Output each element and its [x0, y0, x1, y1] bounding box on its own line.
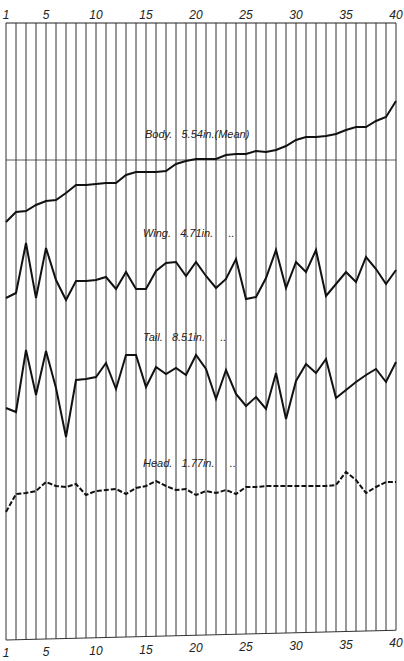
x-tick-label: 1	[3, 8, 10, 22]
wing-series-label: Wing. 4.71in. ..	[143, 227, 235, 239]
x-tick-label: 30	[289, 639, 303, 653]
x-tick-label: 25	[238, 640, 253, 654]
x-tick-label: 40	[389, 636, 403, 650]
x-axis-bottom-ticks: 1510152025303540	[3, 636, 403, 660]
series-lines	[6, 101, 396, 512]
x-tick-label: 40	[389, 8, 403, 22]
x-axis-top-ticks: 1510152025303540	[3, 8, 403, 22]
x-tick-label: 25	[238, 8, 253, 22]
x-tick-label: 15	[139, 8, 153, 22]
x-tick-label: 15	[139, 643, 153, 657]
chart-svg: 1510152025303540 1510152025303540 Body. …	[0, 0, 404, 661]
x-tick-label: 35	[339, 8, 353, 22]
x-tick-label: 20	[188, 8, 203, 22]
tail-series-line	[6, 350, 396, 437]
x-tick-label: 10	[89, 8, 103, 22]
body-series-line	[6, 101, 396, 222]
body-series-label: Body. 5.54in.(Mean)	[145, 128, 250, 140]
tail-series-label: Tail. 8.51in. ..	[143, 331, 226, 343]
head-series-label: Head. 1.77in. ..	[143, 457, 236, 469]
chart-figure: 1510152025303540 1510152025303540 Body. …	[0, 0, 404, 661]
x-tick-label: 10	[89, 644, 103, 658]
x-tick-label: 5	[43, 8, 50, 22]
x-tick-label: 1	[3, 646, 10, 660]
x-tick-label: 30	[289, 8, 303, 22]
x-tick-label: 35	[339, 638, 353, 652]
bottom-border	[6, 630, 396, 640]
x-tick-label: 20	[188, 641, 203, 655]
head-series-line	[6, 472, 396, 512]
wing-series-line	[6, 243, 396, 300]
x-tick-label: 5	[43, 645, 50, 659]
